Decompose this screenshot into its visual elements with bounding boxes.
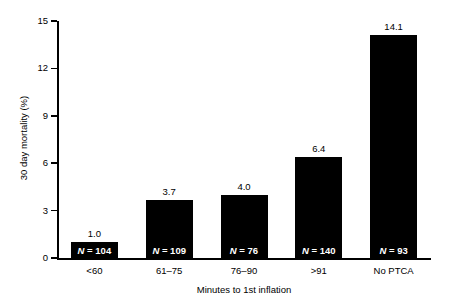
y-axis-title: 30 day mortality (%) xyxy=(16,18,32,258)
y-axis-tick-label: 0 xyxy=(28,253,48,263)
y-axis-tick xyxy=(51,115,57,117)
bar-n-label: N = 76 xyxy=(214,245,274,256)
bar-value-label: 14.1 xyxy=(364,21,424,32)
y-axis-tick-label: 15 xyxy=(28,16,48,26)
y-axis-tick-label: 9 xyxy=(28,111,48,121)
x-axis-title: Minutes to 1st inflation xyxy=(57,284,431,295)
y-axis-tick-label: 6 xyxy=(28,158,48,168)
bar xyxy=(370,35,417,258)
bar-value-label: 3.7 xyxy=(139,186,199,197)
bar-value-label: 4.0 xyxy=(214,181,274,192)
x-axis-tick-label: 61–75 xyxy=(129,265,209,276)
x-axis-tick-label: <60 xyxy=(54,265,134,276)
bar-value-label: 1.0 xyxy=(64,228,124,239)
y-axis-tick xyxy=(51,20,57,22)
y-axis-line xyxy=(57,21,59,259)
bar-n-label: N = 109 xyxy=(139,245,199,256)
x-axis-tick-label: >91 xyxy=(279,265,359,276)
chart-figure: 30 day mortality (%) 03691215 1.0N = 104… xyxy=(0,0,453,304)
bar xyxy=(295,157,342,258)
bar-n-label: N = 93 xyxy=(364,245,424,256)
y-axis-tick xyxy=(51,210,57,212)
x-axis-line xyxy=(57,258,431,260)
y-axis-tick xyxy=(51,68,57,70)
bar-n-label: N = 140 xyxy=(289,245,349,256)
y-axis-tick xyxy=(51,162,57,164)
x-axis-tick-label: No PTCA xyxy=(354,265,434,276)
y-axis-tick-label: 12 xyxy=(28,64,48,74)
bar-value-label: 6.4 xyxy=(289,143,349,154)
y-axis-tick-label: 3 xyxy=(28,206,48,216)
bar-n-label: N = 104 xyxy=(64,245,124,256)
x-axis-tick-label: 76–90 xyxy=(204,265,284,276)
